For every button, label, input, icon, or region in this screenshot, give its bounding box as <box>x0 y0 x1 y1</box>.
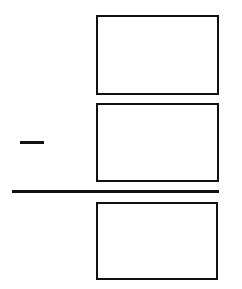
subtrahend-value <box>98 105 217 180</box>
minuend-value <box>98 17 217 93</box>
difference-answer-box[interactable] <box>96 202 218 280</box>
sum-line-divider <box>12 190 219 193</box>
subtrahend-answer-box[interactable] <box>96 103 219 182</box>
minus-sign-icon <box>20 141 44 144</box>
minuend-answer-box[interactable] <box>96 15 219 95</box>
difference-value <box>98 204 216 278</box>
